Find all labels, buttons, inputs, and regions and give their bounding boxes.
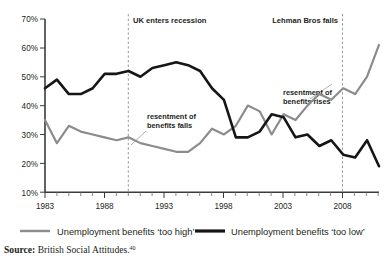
x-tick-label-1993: 1993 <box>155 202 174 211</box>
legend-label-too-high: Unemployment benefits ‘too high’ <box>57 227 194 237</box>
y-tick-label-70: 70% <box>22 15 38 24</box>
x-tick-label-2008: 2008 <box>333 202 352 211</box>
series-line-too-high <box>45 45 379 152</box>
annotation-rises-line2: benefits rises <box>283 97 331 106</box>
x-axis-labels: 1983 1988 1993 1998 2003 2008 <box>36 202 352 211</box>
source-text: British Social Attitudes. <box>35 244 129 255</box>
y-tick-label-10: 10% <box>22 189 38 198</box>
y-tick-label-20: 20% <box>22 160 38 169</box>
legend-label-too-low: Unemployment benefits ‘too low’ <box>231 227 365 237</box>
annotation-falls-line2: benefits falls <box>147 121 192 130</box>
source-note: Source: British Social Attitudes.40 <box>4 244 136 255</box>
x-tick-label-1983: 1983 <box>36 202 55 211</box>
x-axis-major-ticks <box>45 192 343 198</box>
chart-figure: 70% 60% 50% 40% 30% 20% 10% <box>0 0 389 263</box>
event-label-uk-enters-recession: UK enters recession <box>133 16 207 25</box>
x-tick-label-1998: 1998 <box>214 202 233 211</box>
y-axis-labels: 70% 60% 50% 40% 30% 20% 10% <box>22 15 38 198</box>
chart-svg: 70% 60% 50% 40% 30% 20% 10% <box>0 0 389 263</box>
y-tick-label-50: 50% <box>22 73 38 82</box>
x-tick-label-1988: 1988 <box>95 202 114 211</box>
source-prefix: Source: <box>4 244 35 255</box>
annotation-falls-line1: resentment of <box>147 112 196 121</box>
svg-text:Source: British Social Attitud: Source: British Social Attitudes.40 <box>4 244 136 255</box>
series-line-too-low <box>45 62 379 166</box>
event-label-lehman-bros-falls: Lehman Bros falls <box>272 16 338 25</box>
y-tick-label-40: 40% <box>22 102 38 111</box>
y-tick-label-60: 60% <box>22 44 38 53</box>
source-footnote: 40 <box>130 245 136 251</box>
annotation-resentment-of-benefits-falls: resentment of benefits falls <box>147 112 196 130</box>
x-tick-label-2003: 2003 <box>274 202 293 211</box>
chart-legend: Unemployment benefits ‘too high’ Unemplo… <box>20 227 365 237</box>
y-tick-label-30: 30% <box>22 131 38 140</box>
